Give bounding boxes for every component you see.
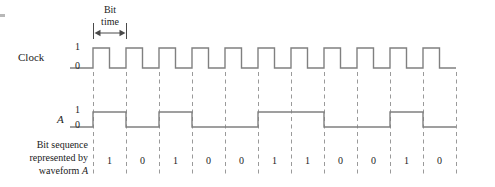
signal-a-level-high-label: 1 [68, 104, 80, 115]
timing-diagram-figure: Clock 1 0 A 1 0 Bit time Bit sequence re… [0, 0, 495, 187]
caption-line-3-signal: A [82, 165, 88, 176]
signal-a-label: A [57, 113, 64, 126]
caption-line-3: waveform A [6, 164, 88, 177]
bit-value-label: 1 [93, 155, 126, 166]
bit-time-annotation: Bit time [86, 4, 134, 28]
clock-level-low-label: 0 [68, 60, 80, 71]
signal-a-trace [70, 112, 456, 127]
bit-value-label: 0 [357, 155, 390, 166]
caption-line-3-prefix: waveform [39, 165, 82, 176]
bit-value-label: 0 [423, 155, 456, 166]
bit-time-line1: Bit [86, 4, 134, 16]
caption-line-1: Bit sequence [6, 138, 88, 151]
clock-waveform [70, 48, 456, 68]
bit-value-label: 1 [159, 155, 192, 166]
caption-line-2: represented by [6, 151, 88, 164]
bit-value-label: 1 [258, 155, 291, 166]
signal-a-level-low-label: 0 [68, 119, 80, 130]
clock-trace [70, 48, 456, 68]
bit-value-label: 0 [324, 155, 357, 166]
clock-level-high-label: 1 [68, 41, 80, 52]
bit-value-label: 0 [192, 155, 225, 166]
bit-time-arrowhead [95, 30, 101, 36]
bit-value-label: 0 [126, 155, 159, 166]
bit-value-label: 0 [225, 155, 258, 166]
clock-signal-label: Clock [18, 51, 44, 64]
bit-time-line2: time [86, 16, 134, 28]
bit-value-label: 1 [291, 155, 324, 166]
signal-a-waveform [70, 112, 456, 127]
bit-sequence-caption: Bit sequence represented by waveform A [6, 138, 88, 177]
bit-time-arrowhead [120, 30, 126, 36]
bit-value-label: 1 [390, 155, 423, 166]
